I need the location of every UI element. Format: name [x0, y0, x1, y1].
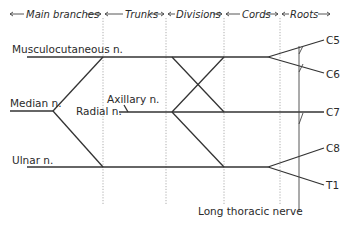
root-c6-line: [268, 57, 324, 73]
long-thoracic-c7-hook: [299, 113, 303, 124]
root-label-c5: C5: [326, 34, 340, 46]
root-label-t1: T1: [325, 179, 339, 191]
header-main-branches: Main branches: [26, 9, 99, 20]
header-cords: Cords: [242, 9, 271, 20]
label-ulnar: Ulnar n.: [12, 154, 53, 166]
label-radial: Radial n.: [76, 105, 122, 117]
root-c8-line: [268, 148, 324, 167]
header-divisions: Divisions: [176, 9, 221, 20]
division-cross-3: [172, 112, 224, 167]
root-label-c7: C7: [326, 106, 340, 118]
root-t1-line: [268, 167, 324, 185]
root-label-c8: C8: [326, 142, 340, 154]
header-roots: Roots: [290, 9, 318, 20]
label-median: Median n.: [10, 97, 62, 109]
brachial-plexus-diagram: Main branches Trunks Divisions Cords Roo…: [0, 0, 348, 226]
label-axillary: Axillary n.: [107, 93, 159, 105]
label-long-thoracic: Long thoracic nerve: [198, 205, 303, 217]
root-label-c6: C6: [326, 68, 340, 80]
root-c5-line: [268, 40, 324, 57]
nerve-lines: [10, 40, 324, 212]
median-medial-root: [53, 111, 103, 167]
long-thoracic-c6-hook: [299, 64, 303, 72]
axillary-branch: [124, 105, 128, 112]
label-musculocutaneous: Musculocutaneous n.: [12, 43, 123, 55]
header-trunks: Trunks: [125, 9, 158, 20]
